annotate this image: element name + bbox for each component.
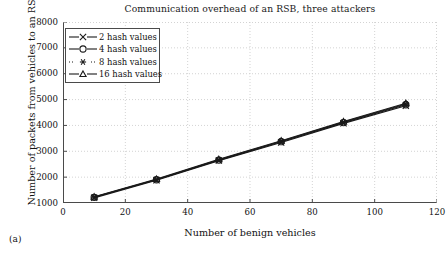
x-tick-label: 20 [105, 207, 145, 217]
legend-label: 4 hash values [99, 44, 157, 54]
y-tick-label: 2000 [18, 172, 58, 182]
x-tick-label: 120 [417, 207, 447, 217]
legend-marker-circle-icon [68, 43, 98, 55]
x-tick-label: 40 [168, 207, 208, 217]
legend-marker-asterisk-icon [68, 56, 98, 68]
legend-item-4: 16 hash values [68, 68, 156, 80]
y-tick-label: 3000 [18, 146, 58, 156]
legend-item-2: 4 hash values [68, 43, 156, 55]
x-tick-label: 100 [355, 207, 395, 217]
chart-legend: 2 hash values4 hash values8 hash values1… [65, 28, 160, 83]
chart-title: Communication overhead of an RSB, three … [63, 3, 437, 14]
x-tick-label: 80 [292, 207, 332, 217]
legend-item-1: 2 hash values [68, 31, 156, 43]
legend-marker-triangle-icon [68, 68, 98, 80]
x-tick-label: 60 [230, 207, 270, 217]
legend-label: 8 hash values [99, 57, 157, 67]
subfigure-label: (a) [9, 234, 21, 244]
y-tick-label: 4000 [18, 120, 58, 130]
y-tick-label: 6000 [18, 68, 58, 78]
legend-marker-x-cross-icon [68, 31, 98, 43]
y-tick-label: 5000 [18, 94, 58, 104]
x-axis-label: Number of benign vehicles [63, 227, 437, 238]
figure-panel: Communication overhead of an RSB, three … [0, 0, 447, 255]
x-tick-label: 0 [43, 207, 83, 217]
y-tick-label: 8000 [18, 17, 58, 27]
y-tick-label: 7000 [18, 42, 58, 52]
legend-item-3: 8 hash values [68, 56, 156, 68]
y-tick-label: 1000 [18, 198, 58, 208]
legend-label: 2 hash values [99, 32, 157, 42]
legend-label: 16 hash values [99, 69, 162, 79]
